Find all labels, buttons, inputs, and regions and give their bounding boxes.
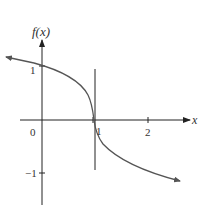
x-tick-label-1: 1	[96, 125, 102, 137]
origin-label: 0	[30, 126, 36, 138]
x-axis-label: x	[191, 113, 198, 127]
y-axis-label: f(x)	[32, 24, 50, 39]
y-tick-label-1: 1	[30, 64, 36, 76]
y-tick-label-neg1: −1	[25, 167, 37, 179]
function-graph: f(x) x 0 1 2 1 −1	[0, 0, 202, 214]
function-curve	[6, 57, 34, 63]
function-curve-main	[34, 63, 180, 181]
x-tick-label-2: 2	[145, 126, 151, 138]
